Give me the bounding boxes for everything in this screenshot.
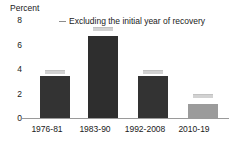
bar-body-2010-19: [188, 104, 218, 118]
bar-body-1992-2008: [138, 76, 168, 118]
x-tick-label-1983-90: 1983-90: [71, 124, 119, 134]
y-tick-label-8: 8: [8, 16, 22, 25]
x-tick-label-1992-2008: 1992-2008: [119, 124, 171, 134]
x-tick-label-2010-19: 2010-19: [170, 124, 218, 134]
bar-body-1983-90: [88, 36, 118, 119]
bar-cap-1983-90: [93, 27, 112, 31]
bar-cap-2010-19: [193, 94, 212, 98]
bar-chart: Percent 8 6 4 2 0 Excluding the initial …: [0, 0, 239, 146]
bar-cap-1976-81: [45, 70, 64, 74]
y-axis-title: Percent: [10, 4, 39, 13]
x-tick-label-1976-81: 1976-81: [23, 124, 71, 134]
plot-area: [28, 18, 227, 118]
bar-2010-19: [188, 18, 218, 118]
y-tick-label-6: 6: [8, 41, 22, 50]
bar-body-1976-81: [40, 76, 70, 119]
y-tick-label-0: 0: [8, 114, 22, 123]
x-axis-line: [22, 118, 229, 119]
bar-1992-2008: [138, 18, 168, 118]
bar-1976-81: [40, 18, 70, 118]
bar-1983-90: [88, 18, 118, 118]
y-tick-label-2: 2: [8, 90, 22, 99]
bar-cap-1992-2008: [143, 70, 162, 74]
y-tick-label-4: 4: [8, 65, 22, 74]
